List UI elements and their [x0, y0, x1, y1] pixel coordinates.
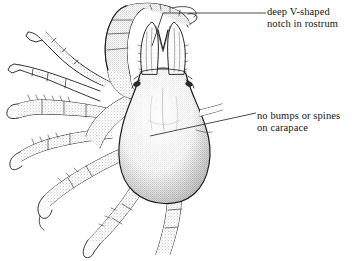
- figure-illustration: deep V-shaped notch in rostrum no bumps …: [0, 0, 354, 261]
- figure-caption-clipped: [2, 255, 202, 261]
- callout-rostrum-line1: deep V-shaped: [267, 6, 338, 18]
- callout-carapace: no bumps or spines on carapace: [257, 110, 340, 133]
- callout-rostrum: deep V-shaped notch in rostrum: [267, 6, 338, 29]
- callout-carapace-line2: on carapace: [257, 122, 340, 134]
- callout-carapace-line1: no bumps or spines: [257, 110, 340, 122]
- callout-rostrum-line2: notch in rostrum: [267, 18, 338, 30]
